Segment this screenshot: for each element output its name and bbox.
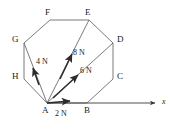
force-diagram-figure: A B C D E F G H 2 N 6 N 8 N 4 N x xyxy=(0,0,173,131)
vertex-label-g: G xyxy=(12,35,19,44)
vertex-label-c: C xyxy=(117,72,123,81)
vertex-label-a: A xyxy=(42,106,49,115)
x-axis-label: x xyxy=(162,98,166,106)
force-label-2n: 2 N xyxy=(55,110,67,118)
force-vector-8n xyxy=(60,54,72,79)
vertex-label-e: E xyxy=(85,8,91,17)
vertex-label-b: B xyxy=(84,106,90,115)
force-vector-6n xyxy=(53,75,78,98)
vertex-label-d: D xyxy=(117,35,124,44)
force-label-6n: 6 N xyxy=(80,67,92,75)
vertex-label-h: H xyxy=(12,72,19,81)
force-label-8n: 8 N xyxy=(73,49,85,57)
force-vector-4n xyxy=(33,68,39,85)
vertex-label-f: F xyxy=(45,8,50,17)
force-label-4n: 4 N xyxy=(36,58,48,66)
